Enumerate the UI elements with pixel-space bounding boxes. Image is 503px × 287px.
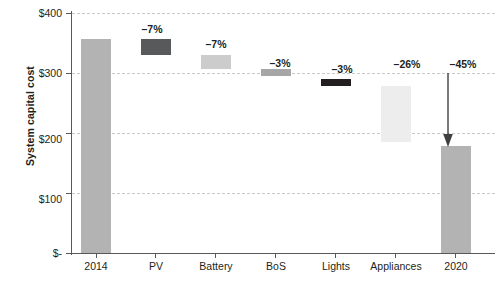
bar-pv[interactable] bbox=[141, 39, 171, 55]
plot-area bbox=[72, 13, 495, 253]
x-axis-label-2020: 2020 bbox=[426, 260, 486, 272]
x-axis-line bbox=[71, 253, 495, 254]
x-axis-label-appliances: Appliances bbox=[361, 260, 431, 272]
waterfall-chart: System capital cost $400 $300 $200 $100 … bbox=[0, 0, 503, 287]
y-tick-label-0: $- bbox=[0, 247, 62, 259]
total-drop-arrow-icon bbox=[438, 73, 458, 149]
delta-label-appliances: –26% bbox=[377, 58, 437, 70]
bar-lights[interactable] bbox=[321, 79, 351, 86]
y-axis-title: System capital cost bbox=[24, 16, 36, 216]
y-tick-label-200: $200 bbox=[0, 133, 62, 145]
gridline-400 bbox=[72, 13, 495, 14]
x-axis-label-bos: BoS bbox=[246, 260, 306, 272]
x-axis-label-lights: Lights bbox=[306, 260, 366, 272]
gridline-200 bbox=[72, 133, 495, 134]
x-tick-mark-battery bbox=[215, 253, 216, 258]
x-tick-mark-pv bbox=[155, 253, 156, 258]
x-tick-mark-bos bbox=[275, 253, 276, 258]
bar-2014[interactable] bbox=[81, 39, 111, 253]
bar-battery[interactable] bbox=[201, 55, 231, 69]
x-axis-label-2014: 2014 bbox=[66, 260, 126, 272]
bar-appliances[interactable] bbox=[381, 86, 411, 142]
x-tick-mark-lights bbox=[335, 253, 336, 258]
x-axis-label-pv: PV bbox=[126, 260, 186, 272]
bar-2020[interactable] bbox=[441, 146, 471, 253]
delta-label-battery: –7% bbox=[190, 38, 242, 50]
y-tick-label-400: $400 bbox=[0, 7, 62, 19]
x-tick-mark-appliances bbox=[395, 253, 396, 258]
y-tick-label-300: $300 bbox=[0, 67, 62, 79]
x-tick-mark-2014 bbox=[96, 253, 97, 258]
x-tick-mark-2020 bbox=[455, 253, 456, 258]
delta-label-total: –45% bbox=[433, 58, 493, 70]
bar-bos[interactable] bbox=[261, 69, 291, 76]
delta-label-lights: –3% bbox=[316, 63, 368, 75]
delta-label-bos: –3% bbox=[254, 57, 306, 69]
y-tick-label-100: $100 bbox=[0, 193, 62, 205]
delta-label-pv: –7% bbox=[126, 23, 178, 35]
x-axis-label-battery: Battery bbox=[186, 260, 246, 272]
gridline-100 bbox=[72, 193, 495, 194]
